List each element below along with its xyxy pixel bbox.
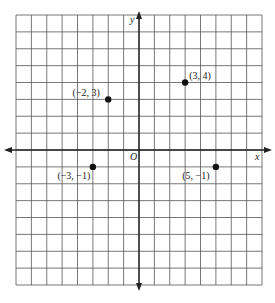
coordinate-plane: x y O (−2, 3)(3, 4)(−3, −1)(5, −1) — [0, 0, 275, 303]
data-point — [182, 79, 188, 85]
origin-label: O — [130, 151, 137, 162]
data-point — [213, 164, 219, 170]
data-point — [90, 164, 96, 170]
y-axis-arrow-down-icon — [136, 283, 142, 291]
x-axis-label: x — [254, 151, 260, 162]
data-point — [105, 96, 111, 102]
point-label: (5, −1) — [182, 170, 209, 182]
x-axis-arrow-right-icon — [264, 147, 272, 153]
axes: x y O — [4, 11, 272, 291]
point-label: (−2, 3) — [73, 87, 100, 99]
y-axis-label: y — [129, 14, 135, 25]
x-axis-arrow-left-icon — [4, 147, 12, 153]
point-label: (3, 4) — [189, 70, 211, 82]
data-points: (−2, 3)(3, 4)(−3, −1)(5, −1) — [57, 70, 219, 182]
point-label: (−3, −1) — [57, 170, 90, 182]
